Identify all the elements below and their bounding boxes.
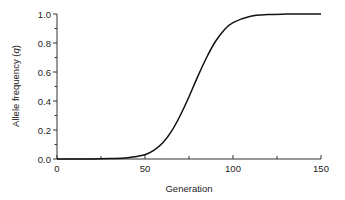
x-tick-label: 50: [140, 163, 151, 174]
x-tick-label: 0: [54, 163, 59, 174]
y-tick-label: 1.0: [38, 9, 51, 20]
y-tick-label: 0.6: [38, 67, 51, 78]
axes: [57, 14, 321, 159]
x-axis-title: Generation: [165, 183, 212, 194]
x-tick-label: 150: [313, 163, 329, 174]
y-axis-title-close: ): [10, 45, 21, 48]
allele-frequency-chart: 050100150 0.00.20.40.60.81.0 Generation …: [0, 0, 345, 200]
allele-frequency-curve: [57, 14, 321, 159]
y-tick-label: 0.8: [38, 38, 51, 49]
y-tick-labels: 0.00.20.40.60.81.0: [38, 9, 51, 165]
x-tick-labels: 050100150: [54, 163, 329, 174]
y-tick-label: 0.0: [38, 154, 51, 165]
x-tick-label: 100: [225, 163, 241, 174]
y-axis-title: Allele frequency (q): [10, 45, 21, 127]
y-axis-title-text: Allele frequency (: [10, 53, 21, 127]
y-tick-label: 0.4: [38, 96, 51, 107]
y-tick-label: 0.2: [38, 125, 51, 136]
tick-marks: [53, 14, 321, 159]
